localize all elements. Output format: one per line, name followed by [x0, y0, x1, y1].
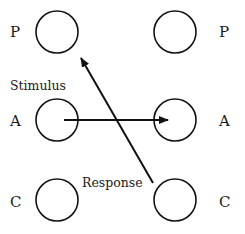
left-parent-circle: [36, 11, 78, 53]
left-a-label: A: [9, 112, 21, 130]
right-c-label: C: [219, 193, 230, 211]
left-p-label: P: [10, 23, 20, 41]
left-c-label: C: [10, 193, 21, 211]
right-child-circle: [154, 179, 196, 221]
transaction-diagram: P A C P A C Stimulus Response: [0, 0, 245, 234]
left-child-circle: [36, 179, 78, 221]
right-a-label: A: [218, 112, 230, 130]
right-parent-circle: [154, 11, 196, 53]
stimulus-label: Stimulus: [10, 78, 66, 93]
right-p-label: P: [219, 23, 229, 41]
response-label: Response: [82, 175, 143, 190]
